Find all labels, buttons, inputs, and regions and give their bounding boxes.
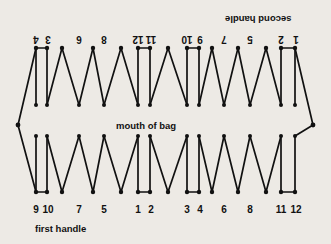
sewing-diagram: 9 10 7 5 1 2 3 4 6 8 11 12 4 3 6 8 12 11… bbox=[0, 0, 331, 244]
top-station-label: 7 bbox=[221, 34, 227, 44]
bottom-station-label: 9 bbox=[33, 205, 39, 215]
upper-zigzag bbox=[18, 48, 313, 125]
top-station-label: 11 bbox=[146, 34, 157, 44]
top-station-label: 9 bbox=[197, 34, 203, 44]
top-station-label: 8 bbox=[101, 34, 107, 44]
bottom-station-label: 1 bbox=[135, 205, 141, 215]
top-station-label: 12 bbox=[132, 34, 143, 44]
top-station-label: 3 bbox=[45, 34, 51, 44]
top-station-label: 1 bbox=[293, 34, 299, 44]
top-station-label: 4 bbox=[33, 34, 39, 44]
mouth-of-bag-caption: mouth of bag bbox=[116, 121, 176, 131]
bottom-station-label: 3 bbox=[184, 205, 190, 215]
bottom-station-label: 6 bbox=[221, 205, 227, 215]
top-station-label: 10 bbox=[181, 34, 192, 44]
top-station-label: 5 bbox=[247, 34, 253, 44]
second-handle-caption: second handle bbox=[225, 14, 292, 24]
bottom-station-label: 8 bbox=[247, 205, 253, 215]
bottom-station-label: 4 bbox=[197, 205, 203, 215]
first-handle-caption: first handle bbox=[35, 224, 86, 234]
top-station-label: 2 bbox=[278, 34, 284, 44]
bottom-station-label: 2 bbox=[148, 205, 154, 215]
bottom-station-label: 11 bbox=[276, 205, 287, 215]
bottom-station-label: 10 bbox=[42, 205, 53, 215]
bottom-station-label: 12 bbox=[290, 205, 301, 215]
bottom-station-label: 5 bbox=[101, 205, 107, 215]
top-station-label: 6 bbox=[76, 34, 82, 44]
bottom-station-label: 7 bbox=[76, 205, 82, 215]
lower-zigzag bbox=[18, 125, 313, 192]
